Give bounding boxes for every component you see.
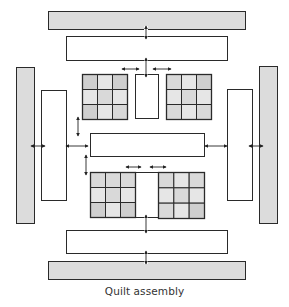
quilt-assembly-diagram [0,0,289,307]
patch-square [159,203,174,218]
right-border [260,67,278,224]
patch-square [159,173,174,188]
top-center-strip [136,75,159,119]
bottom-sashing [67,231,228,254]
patch-square [113,105,128,120]
patch-square [159,188,174,203]
patch-square [106,173,121,188]
patch-square [167,90,182,105]
patch-square [106,203,121,218]
block-top-left [83,75,128,120]
patch-square [106,188,121,203]
patch-square [91,188,106,203]
patch-square [197,90,212,105]
bottom-border [49,262,246,280]
patch-square [182,105,197,120]
patch-square [174,173,189,188]
patch-square [174,188,189,203]
middle-sashing [91,134,205,157]
patch-square [98,90,113,105]
patch-square [113,75,128,90]
patch-square [91,173,106,188]
bottom-center-strip [136,173,159,218]
patch-square [83,105,98,120]
patch-square [167,105,182,120]
patch-square [121,203,136,218]
block-bottom-left [91,173,136,218]
block-top-right [167,75,212,120]
patch-square [91,203,106,218]
patch-square [83,90,98,105]
figure-caption: Quilt assembly [0,285,289,297]
top-sashing [67,37,228,61]
patch-square [197,75,212,90]
patch-square [167,75,182,90]
patch-square [98,105,113,120]
patch-square [83,75,98,90]
patch-square [197,105,212,120]
right-sashing [228,90,253,201]
patch-square [98,75,113,90]
patch-square [174,203,189,218]
left-border [17,68,35,224]
patch-square [189,203,204,218]
patch-square [182,90,197,105]
block-bottom-right [159,173,205,219]
patch-square [121,188,136,203]
left-sashing [42,91,67,201]
patch-square [189,173,204,188]
patch-square [121,173,136,188]
patch-square [113,90,128,105]
patch-square [182,75,197,90]
patch-square [189,188,204,203]
